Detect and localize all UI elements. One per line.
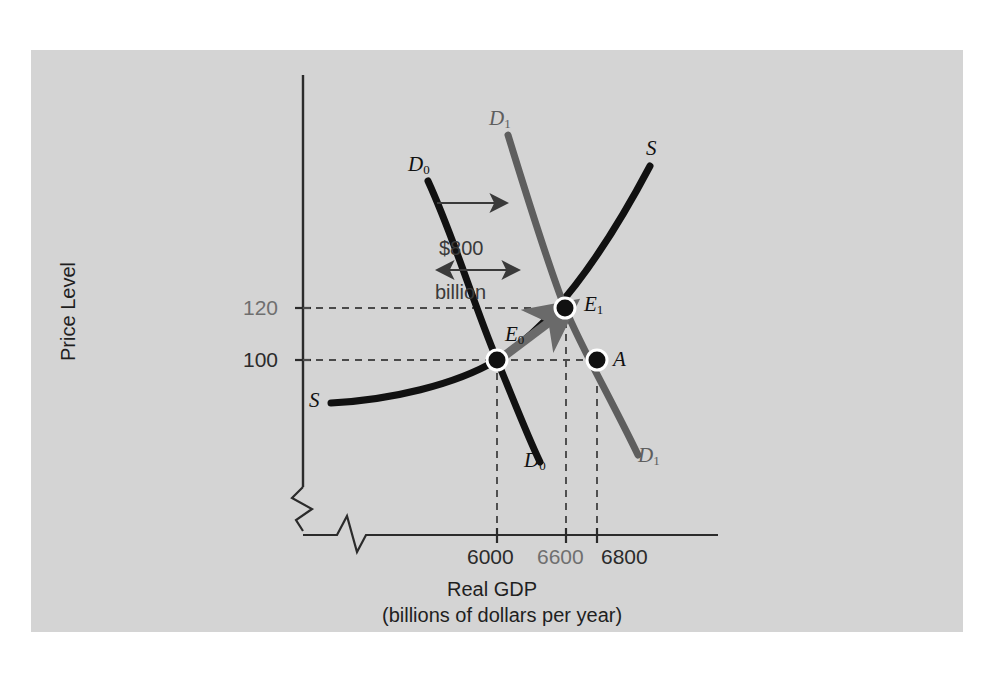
y-axis-break-icon [292,487,312,531]
point-label-e0: E0 [505,322,524,348]
curve-label-s-top: S [646,136,657,161]
point-e0 [487,350,507,370]
point-label-a: A [613,347,626,372]
economics-chart [0,0,986,675]
y-axis [292,75,312,531]
y-tick-label-100: 100 [243,348,278,372]
demand-curve-new [508,135,638,455]
figure-stage: 120 100 Price Level 6000 6600 6800 Real … [0,0,986,675]
x-tick-label-6000: 6000 [467,545,514,569]
y-axis-title: Price Level [57,222,80,402]
guide-lines [303,308,597,528]
y-tick-label-120: 120 [243,296,278,320]
shift-amount-label: $800 [439,237,484,260]
point-e1 [555,298,575,318]
x-tick-label-6600: 6600 [537,545,584,569]
curve-label-d1-top: D1 [489,106,511,132]
curve-label-d1-bottom: D1 [638,443,660,469]
x-tick-label-6800: 6800 [601,545,648,569]
x-axis-title: Real GDP [447,578,537,601]
point-label-e1: E1 [584,292,603,318]
curve-label-d0-bottom: D0 [524,448,546,474]
x-axis-subtitle: (billions of dollars per year) [382,604,622,627]
curve-label-s-left: S [309,388,320,413]
point-a [587,350,607,370]
curve-label-d0-top: D0 [408,152,430,178]
shift-amount-unit-label: billion [435,281,486,304]
